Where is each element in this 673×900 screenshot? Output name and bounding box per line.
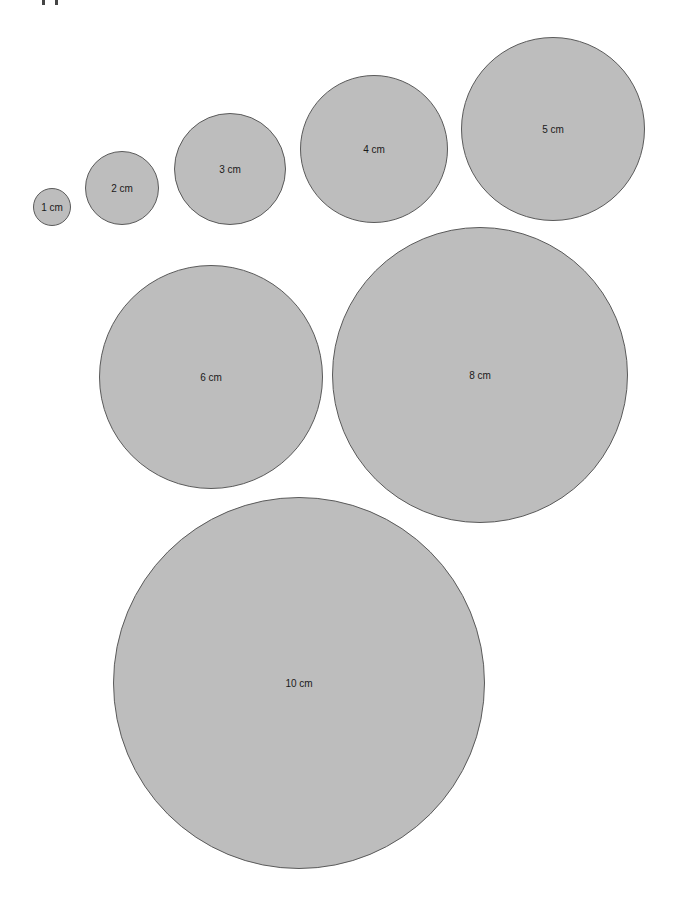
- circle-label: 8 cm: [469, 370, 491, 381]
- circle-6cm: 6 cm: [99, 265, 323, 489]
- circle-4cm: 4 cm: [300, 75, 448, 223]
- circle-1cm: 1 cm: [33, 188, 71, 226]
- circle-label: 4 cm: [363, 144, 385, 155]
- circle-size-chart: 1 cm 2 cm 3 cm 4 cm 5 cm 6 cm 8 cm 10 cm: [0, 0, 673, 900]
- circle-label: 10 cm: [285, 678, 312, 689]
- circle-8cm: 8 cm: [332, 227, 628, 523]
- circle-label: 5 cm: [542, 124, 564, 135]
- circle-label: 1 cm: [41, 202, 63, 213]
- circle-label: 3 cm: [219, 164, 241, 175]
- circle-label: 6 cm: [200, 372, 222, 383]
- page-edge-fragment: [42, 0, 64, 6]
- circle-2cm: 2 cm: [85, 151, 159, 225]
- circle-10cm: 10 cm: [113, 497, 485, 869]
- circle-label: 2 cm: [111, 183, 133, 194]
- circle-3cm: 3 cm: [174, 113, 286, 225]
- circle-5cm: 5 cm: [461, 37, 645, 221]
